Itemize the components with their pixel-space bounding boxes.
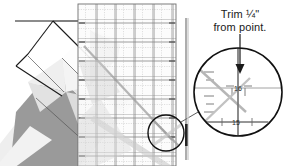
fabric-edge-strip xyxy=(185,18,188,160)
callout-line-1: Trim ¼" xyxy=(196,8,284,21)
acrylic-ruler xyxy=(78,4,176,166)
strip-dark-segment xyxy=(185,124,188,146)
magnifier-lens: 16 15 xyxy=(194,48,282,136)
callout-line-2: from point. xyxy=(196,21,284,34)
callout-text-block: Trim ¼" from point. xyxy=(196,8,284,33)
lens-label-15: 15 xyxy=(232,119,240,126)
lens-label-16: 16 xyxy=(234,85,242,92)
illustration-canvas: 16 15 Trim ¼" from point. xyxy=(0,0,287,166)
